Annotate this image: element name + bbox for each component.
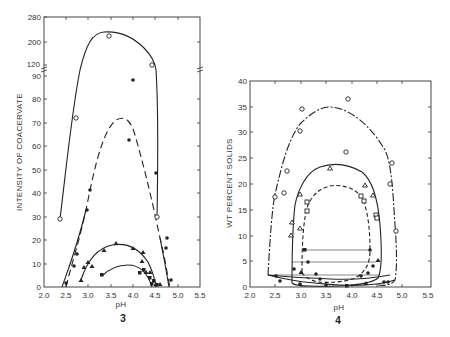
x-tick-label: 5.0	[396, 291, 408, 300]
x-tick-label: 4.0	[346, 291, 358, 300]
curve-filled-circles	[66, 118, 170, 287]
y-tick-label: 30	[32, 213, 41, 222]
x-tick-label: 2.5	[269, 291, 281, 300]
y-tick-label: 40	[32, 189, 41, 198]
y-tick-label: 25	[238, 154, 247, 163]
x-tick-label: 2.0	[244, 291, 256, 300]
y-tick-labels: 40 35 30 25 20 15 10 5 0	[238, 77, 247, 292]
y-tick-label: 20	[238, 180, 247, 189]
y-axis-label: INTENSITY OF COACERVATE	[15, 93, 24, 211]
x-tick-label: 3.5	[105, 291, 117, 300]
y-tick-label: 280	[28, 13, 42, 22]
y-tick-label: 35	[238, 103, 247, 112]
x-tick-label: 4.5	[149, 291, 161, 300]
curve-filled-circles-solid-right	[160, 238, 169, 287]
y-tick-label: 10	[238, 232, 247, 241]
y-tick-label: 120	[27, 60, 41, 69]
y-tick-label: 5	[243, 257, 248, 266]
markers-filled-circles	[64, 78, 173, 285]
y-tick-label: 50	[32, 166, 41, 175]
y-axis-label: WT PERCENT SOLIDS	[225, 138, 234, 227]
y-tick-label: 70	[32, 119, 41, 128]
y-tick-label: 90	[32, 72, 41, 81]
x-tick-label: 4.5	[371, 291, 383, 300]
plot-frame	[44, 17, 200, 287]
y-tick-label: 80	[32, 95, 41, 104]
x-tick-label: 3.5	[320, 291, 332, 300]
x-axis-label: pH	[334, 303, 345, 312]
y-tick-label: 40	[238, 77, 247, 86]
chart-fig4: 40 35 30 25 20 15 10 5 0 2.0 2.5 3.0 3.5…	[225, 77, 434, 326]
y-tick-labels: 280 200 120 90 80 70 60 50 40 30 20 10 0	[27, 13, 42, 292]
y-tick-label: 60	[32, 142, 41, 151]
y-tick-label: 10	[32, 260, 41, 269]
x-tick-label: 4.0	[127, 291, 139, 300]
y-tick-label: 30	[238, 128, 247, 137]
y-tick-label: 200	[28, 38, 42, 47]
x-tick-labels: 2.0 2.5 3.0 3.5 4.0 4.5 5.0 5.5	[244, 291, 434, 300]
curves	[60, 32, 170, 287]
y-tick-label: 15	[238, 206, 247, 215]
x-tick-label: 3.0	[295, 291, 307, 300]
x-tick-label: 2.0	[38, 291, 50, 300]
x-tick-labels: 2.0 2.5 3.0 3.5 4.0 4.5 5.0 5.5	[38, 291, 206, 300]
x-tick-label: 2.5	[60, 291, 72, 300]
x-axis-label: pH	[116, 300, 127, 309]
x-tick-label: 3.0	[82, 291, 94, 300]
x-tick-label: 5.5	[194, 291, 206, 300]
curve-open-circles	[60, 32, 158, 219]
figure-number: 3	[120, 313, 126, 324]
x-tick-label: 5.0	[172, 291, 184, 300]
x-tick-label: 5.5	[422, 291, 434, 300]
y-ticks	[44, 17, 200, 264]
curve-dash-dot	[268, 107, 397, 285]
figure-number: 4	[335, 315, 341, 326]
markers-open-circles	[273, 97, 398, 233]
curve-solid	[292, 165, 381, 287]
axis-break-icon	[41, 67, 203, 72]
y-tick-label: 20	[32, 236, 41, 245]
markers-open-circles	[58, 34, 159, 221]
figure-canvas: 280 200 120 90 80 70 60 50 40 30 20 10 0…	[0, 0, 450, 337]
chart-fig3: 280 200 120 90 80 70 60 50 40 30 20 10 0…	[15, 13, 206, 324]
curve-dashed	[302, 186, 370, 283]
x-ticks	[275, 81, 402, 287]
